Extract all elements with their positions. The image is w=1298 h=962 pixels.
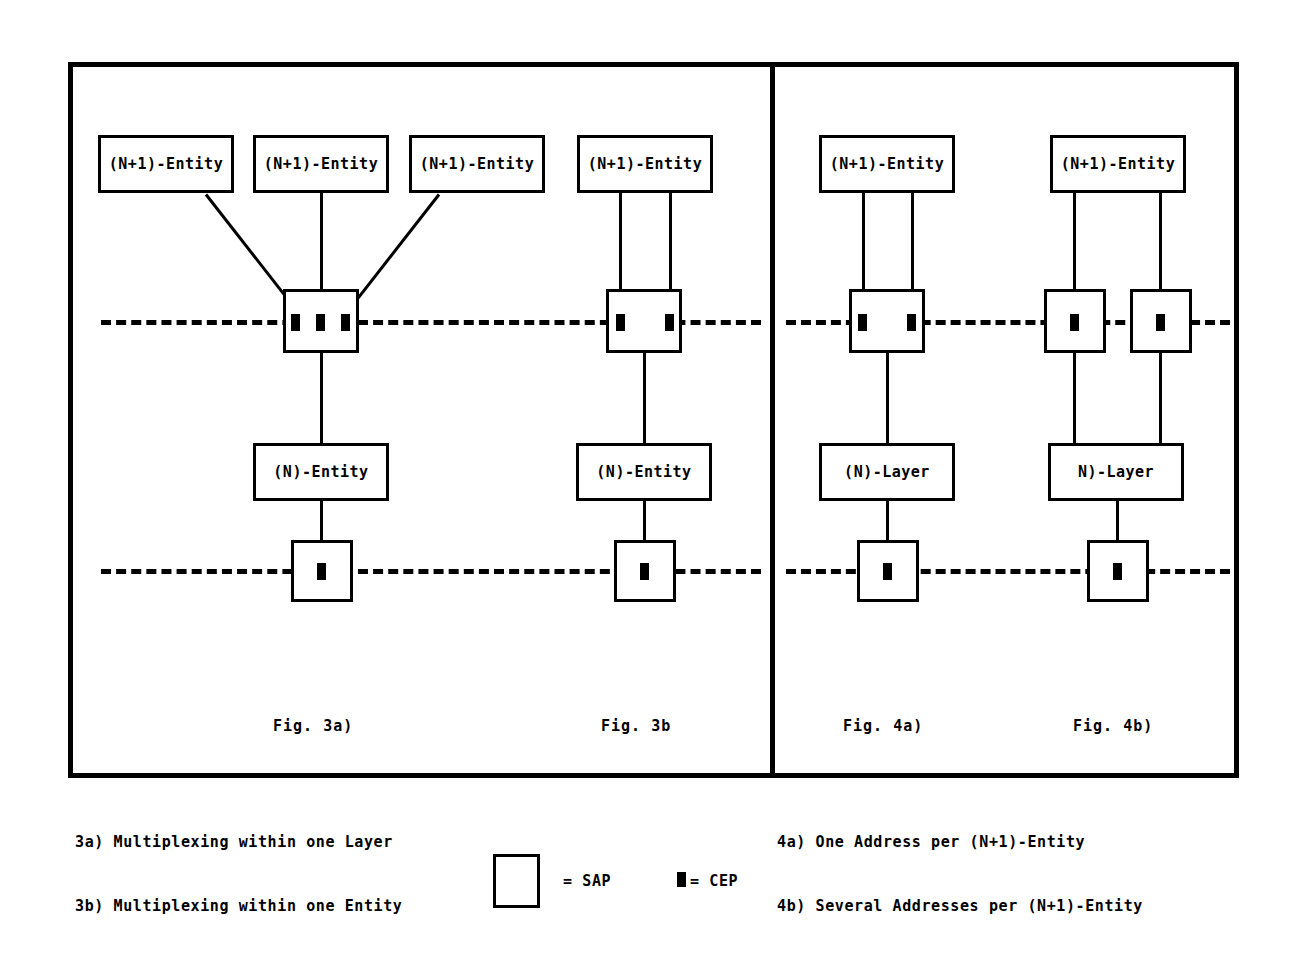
fig4b-link-sap-left-to-layer (1073, 353, 1076, 443)
fig4b-caption: Fig. 4b) (1073, 717, 1153, 735)
fig4b-cep-right (1156, 314, 1165, 331)
legend-3b: 3b) Multiplexing within one Entity (75, 897, 402, 915)
fig3a-caption: Fig. 3a) (273, 717, 353, 735)
fig4a-middle-label: (N)-Layer (844, 463, 930, 481)
fig3a-link-left-diagonal (205, 194, 294, 306)
legend-cep-label: = CEP (690, 872, 738, 890)
legend-sap-label: = SAP (563, 872, 611, 890)
fig4b-entity-label-1: (N+1)-Entity (1061, 155, 1175, 173)
fig4b-middle-box: N)-Layer (1048, 443, 1184, 501)
legend-4a: 4a) One Address per (N+1)-Entity (777, 833, 1085, 851)
fig3a-entity-label-1: (N+1)-Entity (109, 155, 223, 173)
fig4b-middle-label: N)-Layer (1078, 463, 1154, 481)
figure-frame: (N+1)-Entity (N+1)-Entity (N+1)-Entity (… (68, 62, 1239, 778)
fig4a-cep-bottom (883, 563, 892, 580)
fig4a-entity-box-1: (N+1)-Entity (819, 135, 955, 193)
fig3b-caption: Fig. 3b (601, 717, 671, 735)
fig4b-cep-bottom (1113, 563, 1122, 580)
fig3a-cep-2 (316, 314, 325, 331)
fig3b-entity-label-1: (N+1)-Entity (588, 155, 702, 173)
panel-divider (770, 67, 775, 773)
fig3b-middle-label: (N)-Entity (596, 463, 691, 481)
diagram-canvas: (N+1)-Entity (N+1)-Entity (N+1)-Entity (… (0, 0, 1298, 962)
fig3a-entity-box-3: (N+1)-Entity (409, 135, 545, 193)
fig3a-middle-label: (N)-Entity (273, 463, 368, 481)
fig4a-cep-1 (858, 314, 867, 331)
fig3b-cep-2 (665, 314, 674, 331)
fig3a-link-right-diagonal (352, 194, 441, 306)
fig3b-cep-1 (616, 314, 625, 331)
lower-boundary-right (786, 569, 1230, 574)
fig3a-cep-1 (291, 314, 300, 331)
fig3a-entity-box-2: (N+1)-Entity (253, 135, 389, 193)
fig4b-entity-box-1: (N+1)-Entity (1050, 135, 1186, 193)
legend-3a: 3a) Multiplexing within one Layer (75, 833, 393, 851)
fig4b-link-sap-right-to-layer (1159, 353, 1162, 443)
fig4b-cep-left (1070, 314, 1079, 331)
fig3a-cep-3 (341, 314, 350, 331)
fig4a-link-sap-to-layer (886, 353, 889, 443)
fig3a-entity-box-1: (N+1)-Entity (98, 135, 234, 193)
fig3b-link-sap-to-entity (643, 353, 646, 443)
fig3a-cep-bottom (317, 563, 326, 580)
fig3a-link-sap-to-entity (320, 353, 323, 443)
fig3a-entity-label-3: (N+1)-Entity (420, 155, 534, 173)
fig4a-cep-2 (907, 314, 916, 331)
fig3a-middle-box: (N)-Entity (253, 443, 389, 501)
legend-4b: 4b) Several Addresses per (N+1)-Entity (777, 897, 1143, 915)
fig3b-entity-box-1: (N+1)-Entity (577, 135, 713, 193)
legend-cep-symbol (677, 872, 686, 887)
fig3b-cep-bottom (640, 563, 649, 580)
fig4a-entity-label-1: (N+1)-Entity (830, 155, 944, 173)
fig4a-middle-box: (N)-Layer (819, 443, 955, 501)
legend-sap-symbol (493, 854, 540, 908)
fig4a-caption: Fig. 4a) (843, 717, 923, 735)
fig3b-middle-box: (N)-Entity (576, 443, 712, 501)
fig3a-entity-label-2: (N+1)-Entity (264, 155, 378, 173)
